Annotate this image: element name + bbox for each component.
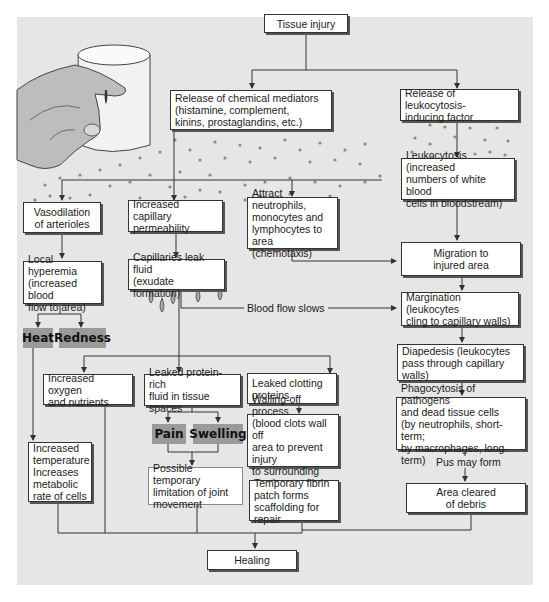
chemical-mediators-label: Release of chemical mediators (histamine… xyxy=(175,92,319,128)
walling-off-box: Walling-off process (blood clots wall of… xyxy=(247,414,339,467)
joint-limitation-box: Possible temporary limitation of joint m… xyxy=(148,467,243,505)
swelling-sign: Swelling xyxy=(193,424,243,444)
increased-oxygen-label: Increased oxygen and nutrients xyxy=(48,372,128,408)
migration-label: Migration to injured area xyxy=(433,247,488,271)
healing-box: Healing xyxy=(207,550,297,570)
vasodilation-label: Vasodilation of arterioles xyxy=(34,206,90,230)
phagocytosis-box: Phagocytosis of pathogens and dead tissu… xyxy=(396,397,526,450)
heat-sign: Heat xyxy=(23,328,53,348)
capillaries-leak-label: Capillaries leak fluid (exudate formatio… xyxy=(133,251,220,299)
fibrin-patch-box: Temporary fibrin patch forms scaffolding… xyxy=(249,480,339,521)
margination-box: Margination (leukocytes cling to capilla… xyxy=(401,292,519,326)
tissue-injury-label: Tissue injury xyxy=(277,18,336,30)
vasodilation-box: Vasodilation of arterioles xyxy=(23,202,101,233)
leukocytosis-factor-label: Release of leukocytosis- inducing factor xyxy=(405,87,514,123)
capillary-permeability-label: Increased capillary permeability xyxy=(133,198,218,234)
capillary-permeability-box: Increased capillary permeability xyxy=(128,200,223,232)
leukocytosis-factor-box: Release of leukocytosis- inducing factor xyxy=(400,89,519,121)
pain-sign: Pain xyxy=(152,424,186,444)
migration-box: Migration to injured area xyxy=(401,242,521,276)
attract-neutrophils-label: Attract neutrophils, monocytes and lymph… xyxy=(252,187,333,259)
leukocytosis-label: Leukocytosis (increased numbers of white… xyxy=(406,149,510,209)
redness-sign: Redness xyxy=(59,328,106,348)
leaked-protein-box: Leaked protein-rich fluid in tissue spac… xyxy=(144,374,241,406)
phagocytosis-label: Phagocytosis of pathogens and dead tissu… xyxy=(401,382,521,466)
walling-off-label: Walling-off process (blood clots wall of… xyxy=(252,393,334,489)
increased-oxygen-box: Increased oxygen and nutrients xyxy=(43,374,133,405)
increased-temperature-box: Increased temperature Increases metaboli… xyxy=(28,442,92,502)
attract-neutrophils-box: Attract neutrophils, monocytes and lymph… xyxy=(247,197,338,249)
healing-label: Healing xyxy=(234,554,270,566)
diapedesis-box: Diapedesis (leukocytes pass through capi… xyxy=(397,344,524,381)
fibrin-patch-label: Temporary fibrin patch forms scaffolding… xyxy=(254,477,334,525)
capillaries-leak-box: Capillaries leak fluid (exudate formatio… xyxy=(128,259,225,290)
joint-limitation-label: Possible temporary limitation of joint m… xyxy=(153,462,238,510)
local-hyperemia-label: Local hyperemia (increased blood flow to… xyxy=(28,253,97,313)
area-cleared-box: Area cleared of debris xyxy=(406,483,526,513)
chemical-mediators-box: Release of chemical mediators (histamine… xyxy=(170,90,332,130)
area-cleared-label: Area cleared of debris xyxy=(436,486,496,510)
blood-flow-slows-label: Blood flow slows xyxy=(244,302,328,314)
increased-temperature-label: Increased temperature Increases metaboli… xyxy=(33,442,90,502)
diapedesis-label: Diapedesis (leukocytes pass through capi… xyxy=(402,345,519,381)
tissue-injury-box: Tissue injury xyxy=(264,14,348,33)
leukocytosis-box: Leukocytosis (increased numbers of white… xyxy=(401,158,515,200)
pus-may-form-label: Pus may form xyxy=(434,456,503,468)
margination-label: Margination (leukocytes cling to capilla… xyxy=(406,291,514,327)
leaked-protein-label: Leaked protein-rich fluid in tissue spac… xyxy=(149,366,236,414)
local-hyperemia-box: Local hyperemia (increased blood flow to… xyxy=(23,261,102,304)
